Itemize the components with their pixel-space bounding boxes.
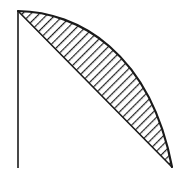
figure-container [0, 0, 189, 171]
geometry-figure [0, 0, 189, 171]
